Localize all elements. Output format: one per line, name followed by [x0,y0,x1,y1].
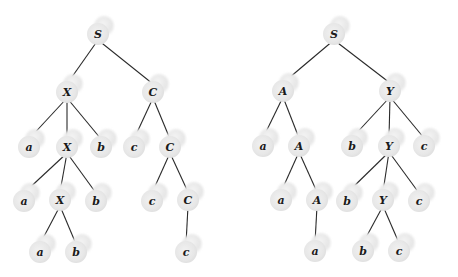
tree-node: b [352,240,374,262]
node-label: a [277,195,284,206]
tree-node: c [413,135,435,157]
node-label: b [343,196,351,207]
node-circle: a [29,241,51,263]
node-circle: A [288,135,310,157]
tree-node: C [177,189,199,211]
node-circle: X [56,81,78,103]
node-label: a [20,196,27,207]
node-label: Y [379,195,387,206]
tree-node: X [56,81,78,103]
tree-edge [98,40,153,84]
node-label: A [279,86,288,97]
tree-node: b [341,135,363,157]
node-label: c [131,142,138,153]
node-circle: X [49,189,71,211]
node-label: c [416,196,423,207]
tree-node: X [56,136,78,158]
node-circle: a [252,135,274,157]
node-label: a [259,141,266,152]
node-circle: a [13,190,35,212]
tree-node: a [13,190,35,212]
node-label: A [313,195,322,206]
node-label: b [92,196,100,207]
node-circle: b [85,190,107,212]
tree-node: a [304,240,326,262]
tree-node: C [142,81,164,103]
tree-edge [334,40,390,83]
tree-node: a [252,135,274,157]
node-label: X [56,195,65,206]
node-circle: c [413,135,435,157]
tree-node: b [65,241,87,263]
tree-node: X [49,189,71,211]
tree-node: a [29,241,51,263]
node-circle: C [177,189,199,211]
node-circle: Y [372,189,394,211]
node-circle: X [56,136,78,158]
tree-node: b [336,190,358,212]
node-circle: c [408,190,430,212]
node-label: c [183,247,190,258]
tree-node: C [159,136,181,158]
tree-node: A [288,135,310,157]
node-label: b [97,142,105,153]
tree-node: a [18,136,40,158]
tree-node: Y [372,189,394,211]
node-label: b [348,141,356,152]
node-label: C [149,87,158,98]
node-label: c [421,141,428,152]
node-circle: c [141,190,163,212]
node-circle: b [336,190,358,212]
node-circle: a [270,189,292,211]
node-label: c [149,196,156,207]
node-circle: b [90,136,112,158]
node-circle: A [306,189,328,211]
node-label: A [295,141,304,152]
node-label: X [63,142,72,153]
tree-node: c [388,240,410,262]
tree-node: a [270,189,292,211]
tree-node: Y [378,135,400,157]
node-circle: A [272,80,294,102]
tree-node: b [85,190,107,212]
node-label: Y [385,141,393,152]
tree-node: c [175,241,197,263]
node-label: S [94,29,102,40]
node-circle: b [352,240,374,262]
node-label: b [72,247,80,258]
node-circle: c [388,240,410,262]
tree-node: S [87,23,109,45]
tree-node: A [272,80,294,102]
node-circle: Y [379,80,401,102]
node-label: C [184,195,193,206]
node-circle: C [159,136,181,158]
node-circle: Y [378,135,400,157]
node-circle: C [142,81,164,103]
node-label: a [36,247,43,258]
node-circle: c [175,241,197,263]
node-circle: a [18,136,40,158]
node-circle: S [323,23,345,45]
tree-node: b [90,136,112,158]
node-label: a [25,142,32,153]
node-circle: b [65,241,87,263]
node-label: C [166,142,175,153]
node-circle: b [341,135,363,157]
tree-node: S [323,23,345,45]
node-circle: a [304,240,326,262]
diagram-canvas: SXCaXbcCaXbcCabcSAYaAbYcaAbYcabc [0,0,458,277]
node-label: c [396,246,403,257]
tree-node: A [306,189,328,211]
tree-node: c [408,190,430,212]
node-label: Y [386,86,394,97]
node-circle: c [123,136,145,158]
node-label: X [63,87,72,98]
node-label: b [359,246,367,257]
tree-node: c [141,190,163,212]
tree-node: Y [379,80,401,102]
node-circle: S [87,23,109,45]
node-label: S [330,29,338,40]
tree-node: c [123,136,145,158]
node-label: a [311,246,318,257]
